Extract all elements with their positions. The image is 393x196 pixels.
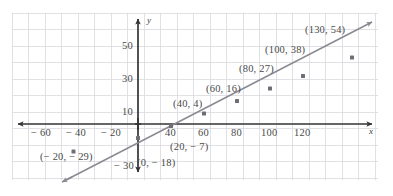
y-tick-label: 10 <box>122 107 133 118</box>
x-tick-label: 60 <box>198 128 209 139</box>
data-point-marker <box>268 87 272 91</box>
point-label: (60, 16) <box>206 84 241 95</box>
data-point-marker <box>136 136 140 140</box>
data-point-marker <box>301 74 305 78</box>
x-tick-label: 40 <box>165 128 176 139</box>
x-tick-label: 100 <box>261 128 277 139</box>
y-tick-label: 50 <box>122 41 133 52</box>
data-point-marker <box>202 112 206 116</box>
x-tick-label: − 20 <box>101 128 121 139</box>
y-tick-label: 30 <box>122 74 133 85</box>
x-tick-label: − 40 <box>66 128 86 139</box>
chart-figure: y x − 60 − 40 − 20 40 60 80 100 120 50 3… <box>0 0 393 196</box>
point-label: (20, − 7) <box>170 142 208 153</box>
point-label: (130, 54) <box>305 25 345 36</box>
point-label: (0, − 18) <box>137 158 175 169</box>
point-label: (80, 27) <box>239 64 274 75</box>
data-point-marker <box>235 99 239 103</box>
y-tick-label: − 30 <box>114 161 134 172</box>
x-axis-label: x <box>369 127 373 136</box>
point-label: (− 20, − 29) <box>40 152 93 163</box>
x-tick-label: 120 <box>294 128 310 139</box>
x-tick-label: − 60 <box>31 128 51 139</box>
point-label: (40, 4) <box>173 99 202 110</box>
y-axis-label: y <box>147 16 151 25</box>
x-tick-label: 80 <box>231 128 242 139</box>
point-label: (100, 38) <box>265 45 305 56</box>
data-point-marker <box>350 56 354 60</box>
